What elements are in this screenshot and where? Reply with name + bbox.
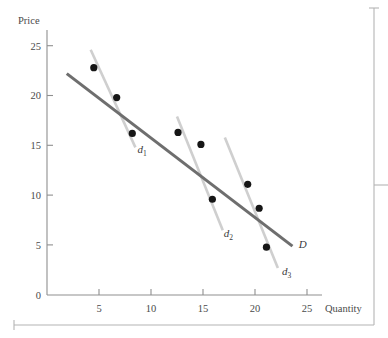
label-d1: d1	[137, 143, 147, 158]
demand-segments	[67, 50, 293, 268]
label-D: D	[298, 238, 307, 250]
data-point-2	[113, 94, 120, 101]
demand-curve-figure: 25 20 15 10 5 0 5 10 15 20 25 Price Quan…	[0, 0, 388, 338]
curve-D	[67, 74, 293, 247]
x-tick-label-5: 5	[96, 303, 101, 314]
x-axis-title: Quantity	[325, 303, 362, 314]
data-point-4	[174, 129, 181, 136]
y-tick-label-5: 5	[36, 240, 41, 251]
y-tick-label-20: 20	[31, 90, 42, 101]
curve-labels: d1d2d3D	[137, 143, 306, 280]
x-tick-label-20: 20	[250, 303, 261, 314]
data-point-9	[263, 244, 270, 251]
y-axis-title: Price	[18, 15, 40, 26]
y-axis-ticks	[47, 46, 53, 245]
label-d2-subscript: 2	[229, 233, 233, 242]
label-d1-subscript: 1	[143, 149, 147, 158]
page-border-decoration	[14, 8, 388, 330]
data-point-3	[129, 130, 136, 137]
data-point-6	[209, 196, 216, 203]
x-tick-label-10: 10	[146, 303, 157, 314]
y-tick-label-10: 10	[31, 190, 42, 201]
data-point-7	[244, 181, 251, 188]
data-point-8	[256, 205, 263, 212]
label-d3: d3	[282, 265, 292, 280]
label-d2: d2	[224, 227, 234, 242]
data-point-5	[197, 141, 204, 148]
x-tick-label-25: 25	[302, 303, 313, 314]
y-tick-label-15: 15	[31, 140, 42, 151]
chart-canvas: 25 20 15 10 5 0 5 10 15 20 25 Price Quan…	[0, 0, 388, 338]
curve-d2	[177, 117, 223, 231]
data-point-1	[90, 64, 97, 71]
y-tick-label-25: 25	[31, 41, 42, 52]
x-tick-label-15: 15	[198, 303, 209, 314]
x-axis-ticks	[99, 289, 307, 295]
label-d3-subscript: 3	[288, 271, 292, 280]
scatter-points	[90, 64, 270, 251]
curve-d3	[225, 137, 278, 268]
y-tick-label-0: 0	[36, 290, 41, 301]
